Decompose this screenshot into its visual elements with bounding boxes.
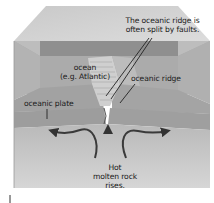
ocean-back-band xyxy=(40,41,178,56)
ocean-label-line2: (e.g. Atlantic) xyxy=(46,72,124,81)
hot-label-line2: molten rock xyxy=(85,172,145,181)
ocean-label: ocean (e.g. Atlantic) xyxy=(46,63,124,81)
faults-label: The oceanic ridge is often split by faul… xyxy=(115,16,210,34)
hot-label-line3: rises. xyxy=(85,181,145,190)
faults-label-line2: often split by faults. xyxy=(115,25,210,34)
hot-label-line1: Hot xyxy=(85,163,145,172)
hot-molten-rock-label: Hot molten rock rises. xyxy=(85,163,145,190)
oceanic-plate-label: oceanic plate xyxy=(24,99,74,108)
oceanic-ridge-label: oceanic ridge xyxy=(131,74,181,83)
ocean-label-line1: ocean xyxy=(46,63,124,72)
faults-label-line1: The oceanic ridge is xyxy=(115,16,210,25)
